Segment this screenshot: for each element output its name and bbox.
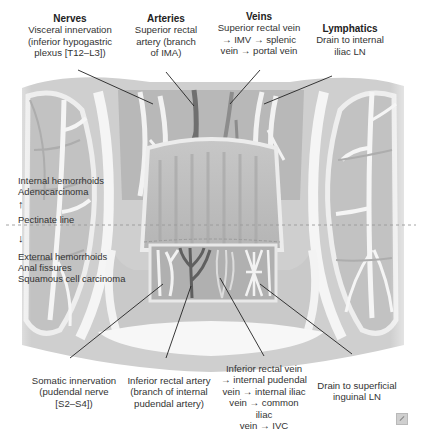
nerves-label: Nerves Visceral innervation (inferior hy… [25,13,115,59]
pectinate-line-diagram: Nerves Visceral innervation (inferior hy… [0,0,422,436]
arrow-down-icon: ↓ [18,233,24,244]
somatic-innervation-label: Somatic innervation (pudendal nerve [S2–… [28,375,120,409]
above-pectinate-label: Internal hemorrhoids Adenocarcinoma [18,175,104,197]
inferior-rectal-vein-label: Inferior rectal vein → internal pudendal… [220,363,308,431]
inferior-rectal-artery-label: Inferior rectal artery (branch of intern… [124,375,214,409]
veins-label: Veins Superior rectal vein → IMV → splen… [216,11,302,57]
superficial-inguinal-label: Drain to superficial inguinal LN [314,380,400,403]
below-pectinate-label: External hemorrhoids Anal fissures Squam… [18,251,125,284]
lymphatics-label: Lymphatics Drain to internal iliac LN [310,23,390,57]
expand-icon[interactable] [396,413,408,425]
arteries-label: Arteries Superior rectal artery (branch … [126,13,206,59]
arrow-up-icon: ↑ [18,199,24,210]
anal-columns [142,139,282,250]
pectinate-line-label: Pectinate line [18,214,74,225]
